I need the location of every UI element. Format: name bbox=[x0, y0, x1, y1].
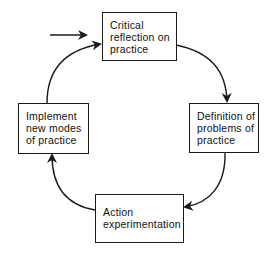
node-label-line: of practice bbox=[26, 134, 88, 146]
arrow-definition-to-action bbox=[185, 152, 225, 207]
node-critical-reflection: Critical reflection on practice bbox=[102, 12, 177, 61]
node-label-line: reflection on bbox=[110, 31, 176, 43]
node-label-line: experimentation bbox=[103, 218, 183, 230]
node-label-line: Action bbox=[103, 206, 183, 218]
node-label-line: practice bbox=[110, 43, 176, 55]
node-action-experimentation: Action experimentation bbox=[95, 194, 184, 243]
node-label-line: Critical bbox=[110, 19, 176, 31]
node-label-line: problems of bbox=[197, 122, 258, 134]
node-definition-of-problems: Definition of problems of practice bbox=[189, 103, 259, 153]
arrow-action-to-implement bbox=[52, 155, 95, 210]
arrow-implement-to-critical bbox=[47, 44, 100, 103]
node-label-line: new modes bbox=[26, 122, 88, 134]
node-label-line: practice bbox=[197, 134, 258, 146]
arrow-critical-to-definition bbox=[176, 45, 227, 101]
node-label-line: Definition of bbox=[197, 110, 258, 122]
node-implement-new-modes: Implement new modes of practice bbox=[18, 103, 89, 154]
node-label-line: Implement bbox=[26, 110, 88, 122]
